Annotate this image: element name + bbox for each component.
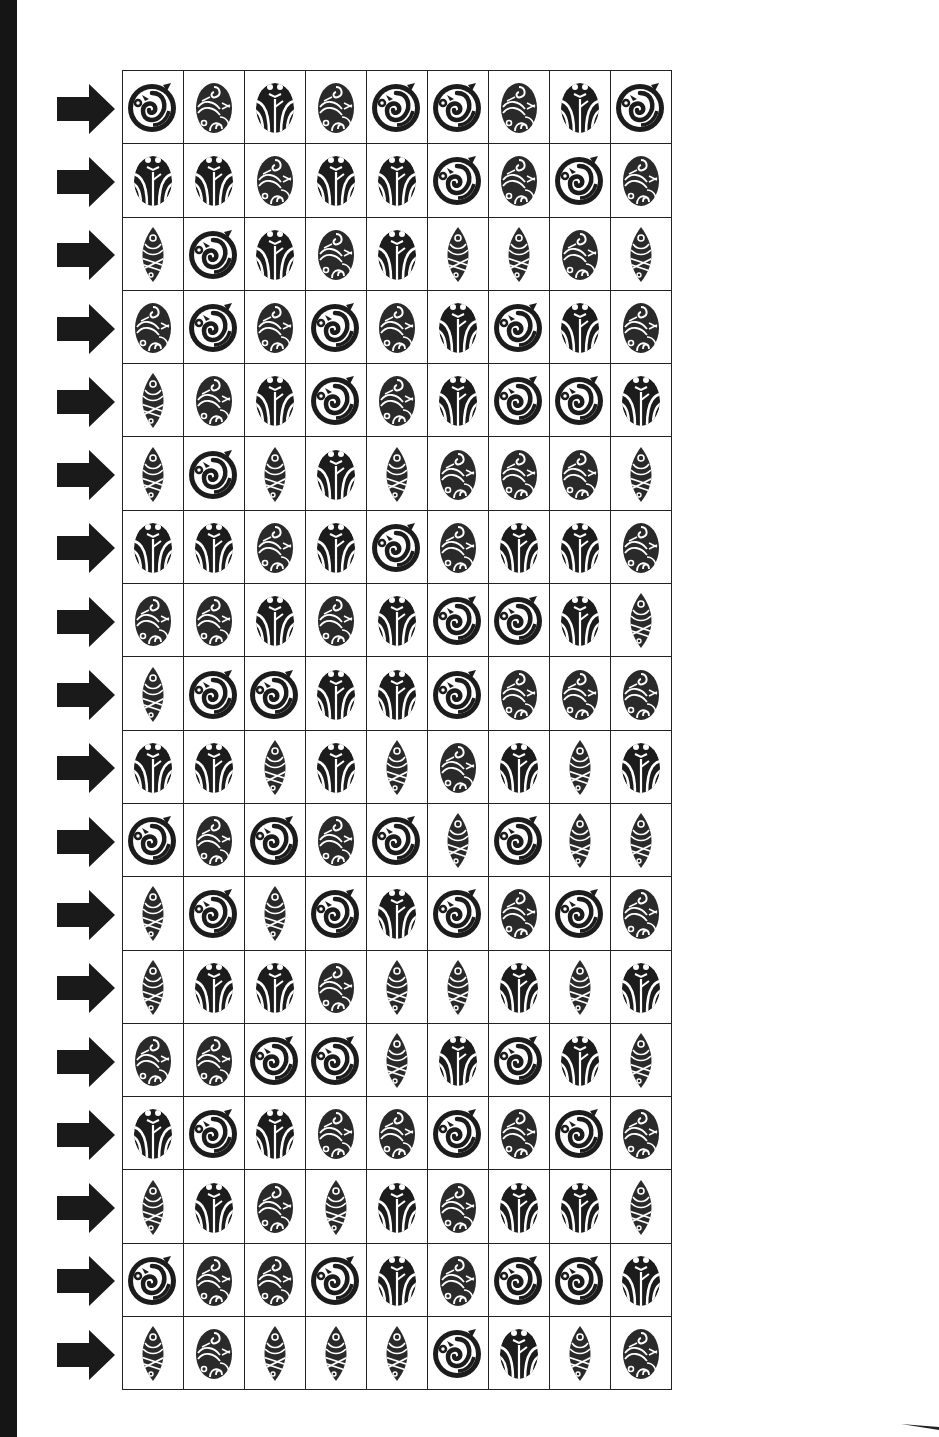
egg-swirl-pattern-icon xyxy=(184,1323,244,1383)
face-branch-icon xyxy=(184,517,244,577)
egg-swirl-pattern-icon xyxy=(184,1250,244,1310)
row-arrow-icon xyxy=(55,1110,117,1160)
grid-cell xyxy=(306,144,367,217)
grid-cell xyxy=(428,950,489,1023)
egg-swirl-pattern-icon xyxy=(184,810,244,870)
grid-cell xyxy=(489,1170,550,1243)
face-branch-icon xyxy=(306,517,366,577)
grid-cell xyxy=(245,657,306,730)
grid-cell xyxy=(611,657,672,730)
grid-cell xyxy=(611,730,672,803)
row-arrow-icon xyxy=(55,963,117,1013)
circle-spiral-icon xyxy=(428,1323,488,1383)
circle-spiral-icon xyxy=(489,810,549,870)
grid-cell xyxy=(245,71,306,144)
grid-cell xyxy=(611,510,672,583)
face-branch-icon xyxy=(123,150,183,210)
grid-cell xyxy=(184,950,245,1023)
row-arrow-icon xyxy=(55,450,117,500)
grid-cell xyxy=(550,217,611,290)
grid-cell xyxy=(428,1023,489,1096)
grid-cell xyxy=(428,290,489,363)
row-arrow-icon xyxy=(55,1183,117,1233)
grid-cell xyxy=(428,510,489,583)
grid-cell xyxy=(550,584,611,657)
egg-swirl-pattern-icon xyxy=(550,444,610,504)
leaf-twist-icon xyxy=(123,1323,183,1383)
grid-cell xyxy=(306,803,367,876)
grid-cell xyxy=(245,364,306,437)
egg-swirl-pattern-icon xyxy=(489,77,549,137)
grid-cell xyxy=(123,437,184,510)
circle-spiral-icon xyxy=(184,444,244,504)
grid-row xyxy=(123,71,672,144)
face-branch-icon xyxy=(611,370,671,430)
face-branch-icon xyxy=(245,77,305,137)
row-arrow-icon xyxy=(55,523,117,573)
grid-cell xyxy=(611,71,672,144)
circle-spiral-icon xyxy=(184,883,244,943)
face-branch-icon xyxy=(428,370,488,430)
grid-cell xyxy=(428,437,489,510)
grid-cell xyxy=(489,1097,550,1170)
circle-spiral-icon xyxy=(550,370,610,430)
grid-cell xyxy=(306,1023,367,1096)
grid-row xyxy=(123,1317,672,1390)
circle-spiral-icon xyxy=(428,590,488,650)
circle-spiral-icon xyxy=(550,1103,610,1163)
grid-cell xyxy=(428,584,489,657)
face-branch-icon xyxy=(123,737,183,797)
circle-spiral-icon xyxy=(428,883,488,943)
grid-cell xyxy=(123,1023,184,1096)
grid-cell xyxy=(428,877,489,950)
grid-cell xyxy=(428,730,489,803)
face-branch-icon xyxy=(489,737,549,797)
row-arrow-icon xyxy=(55,157,117,207)
leaf-twist-icon xyxy=(245,737,305,797)
leaf-twist-icon xyxy=(123,224,183,284)
face-branch-icon xyxy=(306,150,366,210)
egg-swirl-pattern-icon xyxy=(184,370,244,430)
face-branch-icon xyxy=(550,590,610,650)
grid-cell xyxy=(550,730,611,803)
grid-row xyxy=(123,144,672,217)
row-arrow-icon xyxy=(55,817,117,867)
leaf-twist-icon xyxy=(611,590,671,650)
grid-cell xyxy=(184,1243,245,1316)
face-branch-icon xyxy=(306,444,366,504)
grid-row xyxy=(123,364,672,437)
grid-cell xyxy=(611,584,672,657)
face-branch-icon xyxy=(489,1177,549,1237)
grid-cell xyxy=(184,144,245,217)
egg-swirl-pattern-icon xyxy=(428,517,488,577)
grid-cell xyxy=(184,1097,245,1170)
grid-row xyxy=(123,1243,672,1316)
egg-swirl-pattern-icon xyxy=(489,444,549,504)
egg-swirl-pattern-icon xyxy=(306,224,366,284)
grid-row xyxy=(123,1097,672,1170)
leaf-twist-icon xyxy=(489,224,549,284)
egg-swirl-pattern-icon xyxy=(245,1177,305,1237)
leaf-twist-icon xyxy=(611,810,671,870)
grid-cell xyxy=(184,217,245,290)
leaf-twist-icon xyxy=(123,957,183,1017)
grid-cell xyxy=(245,1023,306,1096)
grid-cell xyxy=(184,1023,245,1096)
grid-cell xyxy=(123,510,184,583)
egg-swirl-pattern-icon xyxy=(245,150,305,210)
grid-cell xyxy=(489,217,550,290)
grid-cell xyxy=(123,1170,184,1243)
face-branch-icon xyxy=(611,1250,671,1310)
leaf-twist-icon xyxy=(367,957,427,1017)
circle-spiral-icon xyxy=(550,883,610,943)
grid-cell xyxy=(184,1317,245,1390)
circle-spiral-icon xyxy=(123,1250,183,1310)
symbol-grid xyxy=(122,70,672,1390)
row-arrow-icon xyxy=(55,1256,117,1306)
egg-swirl-pattern-icon xyxy=(489,1103,549,1163)
circle-spiral-icon xyxy=(306,883,366,943)
grid-cell xyxy=(611,290,672,363)
face-branch-icon xyxy=(245,370,305,430)
egg-swirl-pattern-icon xyxy=(184,590,244,650)
grid-cell xyxy=(611,1023,672,1096)
